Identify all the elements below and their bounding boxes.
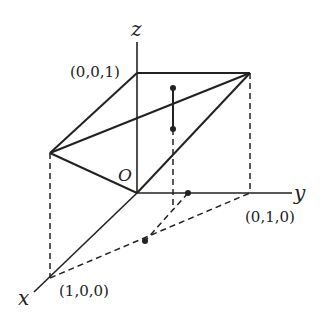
dashed-y-to-base [145,193,188,241]
point-label-001: (0,0,1) [70,63,120,81]
origin-label: O [118,165,132,185]
edge-top-left [50,73,137,153]
points [142,85,191,244]
y-axis-point [185,190,191,196]
diagram-canvas: z y x O (0,0,1) (0,1,0) (1,0,0) [0,0,327,325]
solid-edges [50,73,250,193]
point-label-010: (0,1,0) [245,208,295,226]
point-label-100: (1,0,0) [59,282,109,300]
x-axis-label: x [18,286,29,310]
z-axis-label: z [130,17,142,41]
interior-mid-point [170,126,176,132]
3d-coordinate-diagram: z y x O (0,0,1) (0,1,0) (1,0,0) [0,0,327,325]
interior-top-point [170,85,176,91]
base-point [142,238,148,244]
dashed-base-diagonal [50,193,250,278]
y-axis-label: y [293,181,306,205]
edge-origin-to-topright [137,73,250,193]
edge-diagonal-left-to-topright [50,73,250,153]
